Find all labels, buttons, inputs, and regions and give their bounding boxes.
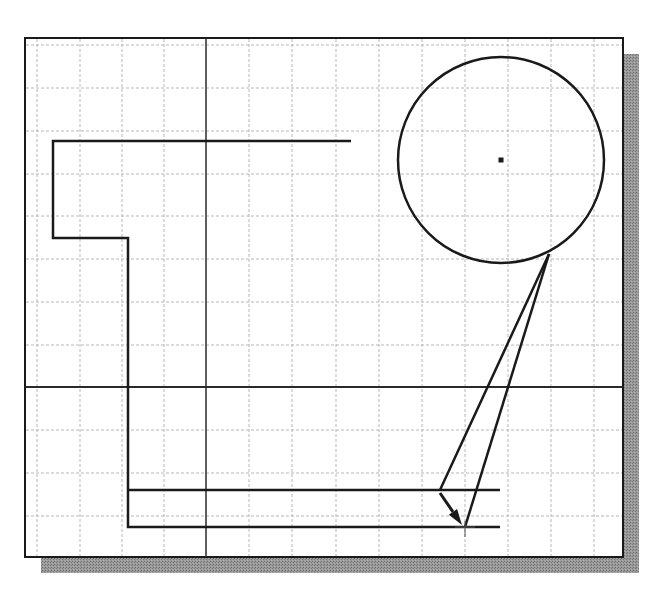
shadow-right <box>623 54 639 573</box>
shadow-bottom <box>41 557 639 573</box>
circle-center-icon <box>499 158 504 163</box>
viewport-border <box>25 38 623 557</box>
viewport-frame <box>25 38 623 557</box>
cad-canvas[interactable]: CAD drawing viewport <box>0 0 662 595</box>
drawing-area[interactable] <box>0 0 662 595</box>
